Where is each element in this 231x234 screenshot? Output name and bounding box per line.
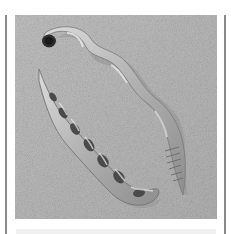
frame-border-right: [224, 15, 226, 234]
shells-photo: [15, 15, 217, 219]
frame-border-left: [5, 15, 7, 234]
shells-illustration: [15, 15, 217, 219]
caption-area: [16, 229, 216, 234]
